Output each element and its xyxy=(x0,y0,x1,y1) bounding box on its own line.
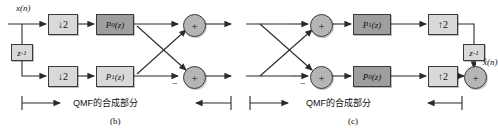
downsampler-top-label: ↓2 xyxy=(58,19,68,30)
output-signal-label: x̂(n) xyxy=(483,57,498,67)
adder-bottom-minus-sign: − xyxy=(172,78,178,89)
filter-block-top: P0(z) xyxy=(96,14,134,35)
downsampler-top: ↓2 xyxy=(48,14,78,35)
filter-top-arg: (z) xyxy=(115,20,125,30)
adder-top: + xyxy=(183,14,206,37)
adder-bottom: + xyxy=(183,66,206,89)
delay-block: z-1 xyxy=(11,44,33,61)
upsampler-top: ↑2 xyxy=(428,14,458,35)
panel-b-label: (b) xyxy=(110,116,121,126)
panel-c-label: (c) xyxy=(348,116,358,126)
filter-bottom-arg: (z) xyxy=(115,72,125,82)
downsampler-bottom: ↓2 xyxy=(48,66,78,87)
delay-exponent: -1 xyxy=(21,49,27,57)
panel-c: + + − P1(z) P0(z) ↑2 ↑2 z-1 + x̂(n) xyxy=(238,0,476,133)
upsampler-bottom: ↑2 xyxy=(428,66,458,87)
filter-block-top: P1(z) xyxy=(353,14,391,35)
filter-top-arg: (z) xyxy=(372,20,382,30)
panel-b-caption: QMF的合成部分 xyxy=(73,96,138,109)
adder-bottom: + xyxy=(310,66,333,89)
panel-b: x(n) z-1 ↓2 ↓2 P0(z) P1(z) + + − QMF的合成部… xyxy=(0,0,238,133)
upsampler-top-label: ↑2 xyxy=(438,19,448,30)
delay-block: z-1 xyxy=(463,44,485,61)
adder-top-symbol: + xyxy=(191,20,197,32)
filter-bottom-arg: (z) xyxy=(372,72,382,82)
upsampler-bottom-label: ↑2 xyxy=(438,71,448,82)
adder-bottom-minus-sign: − xyxy=(300,78,306,89)
delay-exponent: -1 xyxy=(473,49,479,57)
downsampler-bottom-label: ↓2 xyxy=(58,71,68,82)
adder-bottom-symbol: + xyxy=(191,72,197,84)
adder-output: + xyxy=(464,66,487,89)
filter-block-bottom: P1(z) xyxy=(96,66,134,87)
input-signal-label: x(n) xyxy=(16,3,31,13)
adder-bottom-symbol: + xyxy=(318,72,324,84)
panel-c-caption: QMF的合成部分 xyxy=(306,96,371,109)
adder-top: + xyxy=(310,14,333,37)
adder-top-symbol: + xyxy=(318,20,324,32)
filter-block-bottom: P0(z) xyxy=(353,66,391,87)
adder-output-symbol: + xyxy=(472,72,478,84)
